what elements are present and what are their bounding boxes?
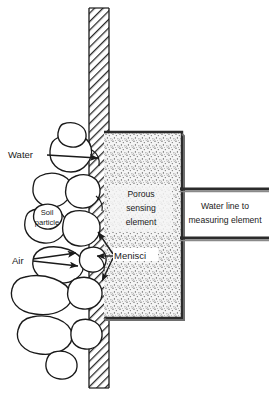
label-air: Air bbox=[12, 255, 24, 266]
label-soil-particle-line2: particle bbox=[35, 218, 59, 227]
label-menisci-text: Menisci bbox=[114, 250, 146, 261]
water-line-tube-upper bbox=[180, 189, 269, 192]
label-water-line: Water line to measuring element bbox=[188, 201, 262, 225]
tensiometer-diagram: Water Soil particle Air Menisci Porous s… bbox=[0, 0, 269, 396]
label-water: Water bbox=[8, 149, 33, 160]
label-element-line2: sensing bbox=[126, 203, 156, 213]
water-line-tube-lower bbox=[180, 238, 269, 241]
label-water-line-line1: Water line to bbox=[201, 201, 249, 211]
label-menisci: Menisci bbox=[113, 248, 158, 261]
label-porous-sensing-element: Porous sensing element bbox=[110, 185, 172, 232]
label-element-line1: Porous bbox=[127, 189, 154, 199]
label-water-line-line2: measuring element bbox=[188, 215, 262, 225]
label-soil-particle-line1: Soil bbox=[41, 208, 54, 217]
label-element-line3: element bbox=[126, 217, 157, 227]
